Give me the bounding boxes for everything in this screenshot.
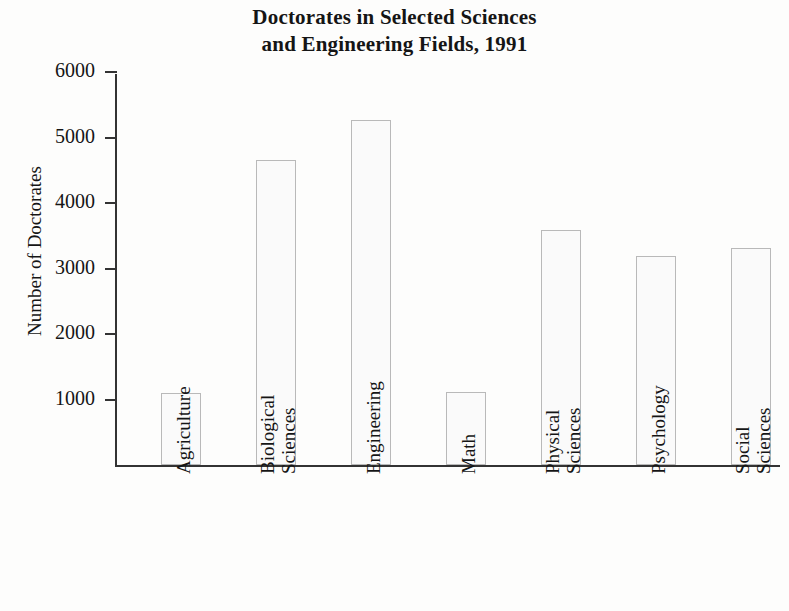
y-tick-6000: 6000 <box>105 71 117 73</box>
x-tick-label-engineering: Engineering <box>363 324 384 474</box>
y-tick-label-1000: 1000 <box>55 386 95 410</box>
y-tick-1000: 1000 <box>105 399 117 401</box>
y-axis-line <box>115 74 117 467</box>
y-tick-label-6000: 6000 <box>55 58 95 82</box>
chart-title-line-2: and Engineering Fields, 1991 <box>0 31 789 58</box>
x-tick-label-math: Math <box>458 324 479 474</box>
y-tick-label-5000: 5000 <box>55 124 95 148</box>
y-tick-3000: 3000 <box>105 268 117 270</box>
chart-figure: Doctorates in Selected Sciences and Engi… <box>0 0 789 611</box>
chart-title: Doctorates in Selected Sciences and Engi… <box>0 4 789 58</box>
chart-title-line-1: Doctorates in Selected Sciences <box>0 4 789 31</box>
x-tick-label-biological-sciences: BiologicalSciences <box>257 324 299 474</box>
y-tick-2000: 2000 <box>105 333 117 335</box>
y-tick-label-4000: 4000 <box>55 189 95 213</box>
x-tick-label-social-sciences: SocialSciences <box>732 324 774 474</box>
y-tick-label-3000: 3000 <box>55 255 95 279</box>
x-tick-label-agriculture: Agriculture <box>173 324 194 474</box>
x-axis-line <box>115 465 780 467</box>
y-tick-5000: 5000 <box>105 137 117 139</box>
y-tick-4000: 4000 <box>105 202 117 204</box>
y-tick-label-2000: 2000 <box>55 320 95 344</box>
plot-area: 1000 2000 3000 4000 5000 6000 Agricultur… <box>115 70 780 467</box>
x-tick-label-psychology: Psychology <box>648 324 669 474</box>
x-tick-label-physical-sciences: PhysicalSciences <box>542 324 584 474</box>
y-axis-title: Number of Doctorates <box>24 121 46 381</box>
